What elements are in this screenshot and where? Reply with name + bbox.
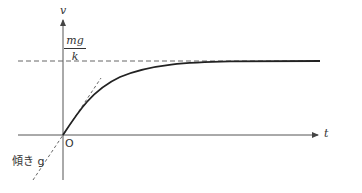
slope-label: 傾き g	[12, 156, 44, 167]
t-axis-label: t	[324, 128, 328, 139]
fraction-numerator: mg	[64, 34, 86, 49]
velocity-curve	[63, 61, 320, 135]
fraction-denominator: k	[64, 49, 86, 63]
velocity-time-diagram	[0, 0, 362, 193]
v-axis-label: v	[60, 5, 66, 16]
origin-label: O	[65, 138, 74, 149]
terminal-velocity-label: mg k	[64, 34, 86, 63]
